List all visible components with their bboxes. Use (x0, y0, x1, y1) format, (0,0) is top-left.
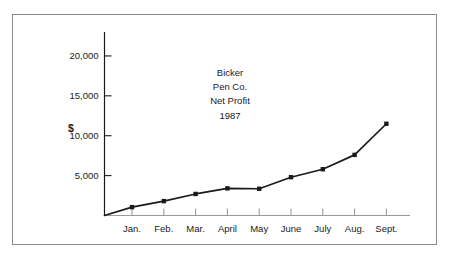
chart-title-line: 1987 (186, 109, 274, 123)
y-axis-ticks (105, 56, 112, 176)
x-tick-label: Sept. (364, 224, 408, 234)
data-line (105, 124, 387, 216)
y-tick-label: 15,000 (41, 91, 99, 101)
data-point-marker (162, 199, 166, 203)
data-point-marker (130, 205, 134, 209)
chart-title-block: BickerPen Co.Net Profit1987 (186, 66, 274, 123)
data-point-marker (257, 187, 261, 191)
data-point-marker (193, 192, 197, 196)
chart-figure: $ 5,00010,00015,00020,000 Jan.Feb.Mar.Ap… (0, 0, 452, 261)
data-point-markers (130, 122, 389, 210)
chart-title-line: Bicker (186, 66, 274, 80)
chart-title-line: Net Profit (186, 94, 274, 108)
y-tick-label: 20,000 (41, 51, 99, 61)
y-tick-label: 10,000 (41, 131, 99, 141)
data-point-marker (289, 175, 293, 179)
data-point-marker (225, 186, 229, 190)
chart-title-line: Pen Co. (186, 80, 274, 94)
data-point-marker (384, 122, 388, 126)
x-axis-ticks (132, 209, 386, 216)
y-tick-label: 5,000 (41, 171, 99, 181)
data-point-marker (321, 167, 325, 171)
data-point-marker (352, 153, 356, 157)
